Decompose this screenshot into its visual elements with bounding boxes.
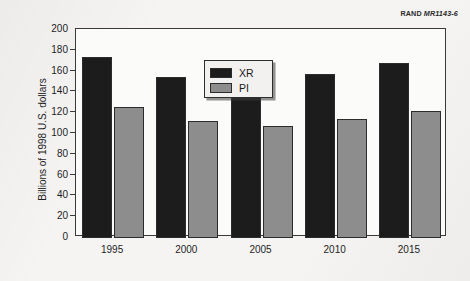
y-tick-label: 140 xyxy=(34,85,68,96)
y-tick-label: 180 xyxy=(34,43,68,54)
bar-xr-2005 xyxy=(231,80,261,238)
chart-legend: XR PI xyxy=(204,60,273,98)
bar-pi-2000 xyxy=(188,121,218,238)
rand-brand-label: RAND xyxy=(400,9,421,18)
figure-number-label: MR1143-6 xyxy=(424,9,458,18)
figure-container: RANDMR1143-6 Billions of 1998 U.S. dolla… xyxy=(0,0,470,281)
x-tick-label-1995: 1995 xyxy=(82,244,142,255)
bar-xr-2015 xyxy=(379,63,409,238)
y-tick-label: 40 xyxy=(34,189,68,200)
bar-pi-1995 xyxy=(114,107,144,238)
bar-xr-2010 xyxy=(305,74,335,238)
legend-swatch-pi xyxy=(210,83,232,93)
y-tick-label: 200 xyxy=(34,23,68,34)
bar-pi-2010 xyxy=(337,119,367,238)
legend-swatch-xr xyxy=(210,68,232,78)
plot-area: XR PI xyxy=(75,28,446,236)
x-tick-label-2010: 2010 xyxy=(305,244,365,255)
y-tick-label: 100 xyxy=(34,127,68,138)
y-tick-label: 60 xyxy=(34,168,68,179)
x-tick-label-2000: 2000 xyxy=(156,244,216,255)
figure-identifier: RANDMR1143-6 xyxy=(400,9,458,18)
y-tick-label: 160 xyxy=(34,64,68,75)
bar-pi-2005 xyxy=(263,126,293,238)
bar-xr-1995 xyxy=(82,57,112,238)
y-tick-label: 20 xyxy=(34,210,68,221)
legend-label-pi: PI xyxy=(239,82,249,94)
bar-pi-2015 xyxy=(411,111,441,238)
y-tick-label: 80 xyxy=(34,147,68,158)
x-tick-label-2005: 2005 xyxy=(231,244,291,255)
legend-item-xr: XR xyxy=(210,66,254,79)
legend-item-pi: PI xyxy=(210,81,249,94)
y-tick-label: 120 xyxy=(34,106,68,117)
legend-label-xr: XR xyxy=(239,67,254,79)
y-tick-label: 0 xyxy=(34,231,68,242)
x-tick-label-2015: 2015 xyxy=(379,244,439,255)
bar-xr-2000 xyxy=(156,77,186,238)
